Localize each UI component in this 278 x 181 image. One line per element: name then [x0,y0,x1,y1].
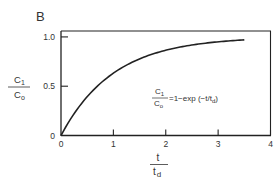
y-ticks: 00.51.0 [43,32,68,141]
x-label-numerator: t [157,152,160,163]
chart: B 01234 00.51.0 C1 Co t td C1 Co =1−exp … [0,0,278,181]
x-label-denominator: td [153,166,161,179]
x-tick-label: 4 [268,139,273,149]
y-tick-label: 0.5 [43,81,55,91]
x-tick-label: 1 [111,139,116,149]
x-tick-label: 0 [59,139,64,149]
x-tick-label: 3 [216,139,221,149]
y-tick-label: 0 [50,131,55,141]
x-ticks: 01234 [59,130,274,149]
panel-label: B [36,9,45,24]
y-axis-label: C1 Co [8,74,30,101]
y-label-denominator: Co [14,89,25,101]
eq-numerator: C1 [155,87,165,97]
eq-denominator: Co [154,99,164,109]
eq-rhs: =1−exp (−t/td) [169,94,218,104]
y-label-numerator: C1 [14,74,25,86]
equation-annotation: C1 Co =1−exp (−t/td) [152,87,218,109]
x-axis-label: t td [150,152,168,179]
series-line [61,40,244,136]
plot-frame [61,31,271,136]
x-tick-label: 2 [163,139,168,149]
y-tick-label: 1.0 [43,32,55,42]
